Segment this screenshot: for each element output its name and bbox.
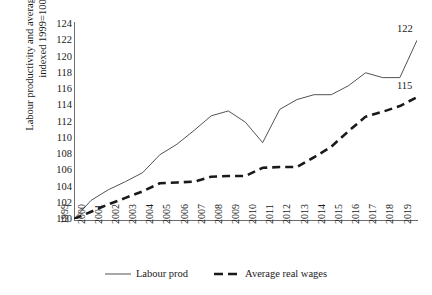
x-axis-tick-label: 2009 bbox=[231, 204, 241, 224]
x-axis-tick-label: 2008 bbox=[214, 204, 224, 224]
legend-label-labour-prod: Labour prod bbox=[136, 268, 188, 279]
chart-figure: Labour productivity and average real wag… bbox=[0, 0, 432, 295]
x-axis-tick-label: 2010 bbox=[248, 204, 258, 224]
x-axis-tick-label: 2015 bbox=[334, 204, 344, 224]
x-axis-tick-label: 2017 bbox=[368, 204, 378, 224]
x-axis-tick-label: 2011 bbox=[265, 204, 275, 224]
x-axis-tick-label: 2001 bbox=[94, 204, 104, 224]
chart-legend: Labour prod Average real wages bbox=[0, 268, 432, 279]
x-axis-tick-label: 2005 bbox=[162, 204, 172, 224]
x-axis-tick-label: 2016 bbox=[351, 204, 361, 224]
x-axis-tick-label: 2019 bbox=[403, 204, 413, 224]
legend-item-average-real-wages: Average real wages bbox=[214, 268, 327, 279]
x-axis-tick-label: 2013 bbox=[300, 204, 310, 224]
x-axis-tick-label: 2014 bbox=[317, 204, 327, 224]
x-axis-tick-label: 2004 bbox=[145, 204, 155, 224]
x-axis-tick-label: 2018 bbox=[385, 204, 395, 224]
legend-item-labour-prod: Labour prod bbox=[105, 268, 188, 279]
x-axis-tick-label: 2007 bbox=[197, 204, 207, 224]
end-label-average-real-wages: 115 bbox=[397, 81, 412, 92]
x-axis-tick-label: 1999 bbox=[60, 204, 70, 224]
x-axis-tick-label: 2002 bbox=[111, 204, 121, 224]
x-axis-tick-label: 2012 bbox=[282, 204, 292, 224]
end-label-labour-prod: 122 bbox=[397, 24, 413, 35]
x-axis-tick-label: 2003 bbox=[128, 204, 138, 224]
x-axis-tick-label: 2006 bbox=[180, 204, 190, 224]
legend-swatch-solid-line-icon bbox=[105, 270, 131, 278]
legend-label-average-real-wages: Average real wages bbox=[245, 268, 327, 279]
legend-swatch-dashed-line-icon bbox=[214, 270, 240, 278]
x-axis-ticks: 1999200020012002200320042005200620072008… bbox=[0, 0, 432, 295]
x-axis-tick-label: 2000 bbox=[77, 204, 87, 224]
